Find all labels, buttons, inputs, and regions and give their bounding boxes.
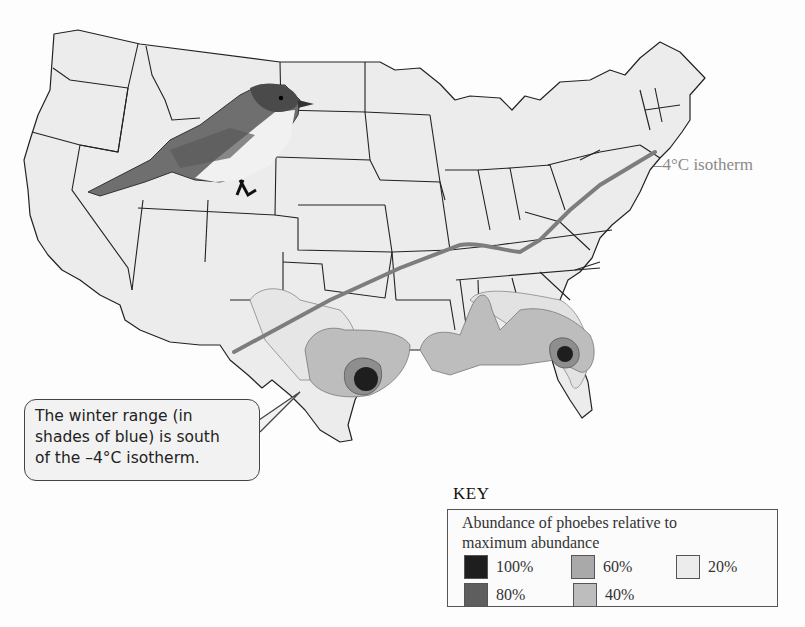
legend-description-line-1: Abundance of phoebes relative to	[462, 513, 782, 533]
swatch-80	[464, 583, 488, 607]
legend-item-80: 80%	[464, 583, 525, 607]
key-title: KEY	[453, 484, 489, 504]
legend-item-40: 40%	[573, 583, 634, 607]
legend-description: Abundance of phoebes relative to maximum…	[462, 513, 782, 553]
legend-item-60: 60%	[571, 555, 632, 579]
legend-label-60: 60%	[603, 558, 632, 576]
swatch-40	[573, 583, 597, 607]
legend-label-80: 80%	[496, 586, 525, 604]
swatch-100	[464, 555, 488, 579]
callout-line-2: shades of blue) is south	[35, 427, 249, 448]
legend-label-100: 100%	[496, 558, 533, 576]
swatch-60	[571, 555, 595, 579]
legend-label-40: 40%	[605, 586, 634, 604]
legend-item-100: 100%	[464, 555, 533, 579]
callout-line-1: The winter range (in	[35, 406, 249, 427]
legend-description-line-2: maximum abundance	[462, 533, 782, 553]
swatch-20	[676, 555, 700, 579]
isotherm-label: –4°C isotherm	[654, 155, 753, 175]
winter-range-callout: The winter range (in shades of blue) is …	[24, 399, 260, 481]
abundance-legend: Abundance of phoebes relative to maximum…	[447, 509, 778, 607]
callout-line-3: of the –4°C isotherm.	[35, 448, 249, 469]
legend-item-20: 20%	[676, 555, 737, 579]
legend-label-20: 20%	[708, 558, 737, 576]
callout-pointer	[259, 392, 300, 432]
